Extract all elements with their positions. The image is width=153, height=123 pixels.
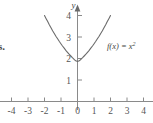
x-tick-labels: -4 -3 -2 -1 0 1 2 3 4 [8, 106, 147, 116]
x-tick-label: 1 [92, 106, 97, 116]
graph-canvas: -4 -3 -2 -1 0 1 2 3 4 1 2 3 4 y f(x) = x… [0, 0, 153, 123]
y-tick-label: 1 [66, 76, 71, 86]
curve-label-exponent: 2 [133, 41, 136, 47]
parabola-figure: s. -4 -3 -2 [0, 0, 153, 123]
curve-label: f(x) = x2 [107, 41, 136, 51]
x-tick-label: 2 [108, 106, 113, 116]
y-tick-labels: 1 2 3 4 [66, 11, 71, 86]
x-tick-label: -4 [8, 106, 16, 116]
x-tick-label: 3 [125, 106, 130, 116]
x-tick-label: -3 [24, 106, 32, 116]
x-tick-label: -1 [57, 106, 65, 116]
x-tick-label: 0 [75, 106, 80, 116]
x-tick-label: -2 [41, 106, 49, 116]
y-tick-label: 3 [66, 33, 71, 43]
curve-label-text: f(x) = x [107, 41, 133, 51]
x-tick-label: 4 [141, 106, 146, 116]
y-axis-label: y [71, 0, 76, 10]
y-axis-ticks [78, 16, 83, 81]
y-tick-label: 4 [66, 11, 71, 21]
